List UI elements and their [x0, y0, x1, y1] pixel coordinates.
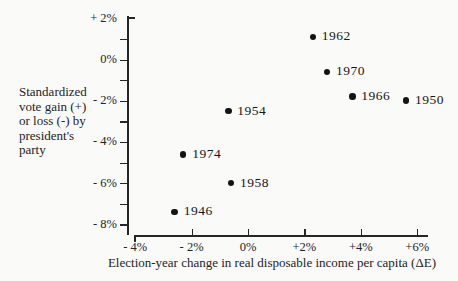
y-tick-label: - 2% [61, 93, 117, 108]
y-tick [120, 101, 127, 102]
data-point-label: 1946 [184, 203, 213, 219]
x-tick [248, 229, 249, 235]
data-point-dot [225, 108, 232, 115]
y-tick [120, 204, 127, 205]
y-tick [120, 163, 127, 164]
y-tick-label: 0% [61, 52, 117, 67]
x-axis-title: Election-year change in real disposable … [86, 255, 458, 271]
y-axis-line [127, 16, 129, 235]
y-tick-label: - 8% [61, 217, 117, 232]
y-tick-label: - 6% [61, 176, 117, 191]
data-point-label: 1958 [240, 175, 269, 191]
data-point-label: 1970 [336, 63, 365, 79]
data-point-dot [180, 151, 187, 158]
y-tick [120, 39, 127, 40]
y-tick-label: - 4% [61, 134, 117, 149]
y-tick [120, 183, 127, 184]
data-point-label: 1966 [361, 88, 390, 104]
x-tick [304, 229, 305, 235]
x-tick-label: 0% [220, 240, 276, 254]
x-tick-label: - 4% [107, 240, 163, 254]
data-point-dot [403, 97, 410, 104]
y-tick [120, 224, 127, 225]
data-point-dot [349, 93, 356, 100]
x-tick-label: - 2% [164, 240, 220, 254]
x-tick-label: +6% [389, 240, 445, 254]
data-point-dot [310, 34, 317, 41]
data-point-dot [171, 209, 178, 216]
x-axis-line [134, 235, 428, 237]
x-tick-label: +2% [276, 240, 332, 254]
scatter-chart: Standardized vote gain (+) or loss (-) b… [0, 0, 458, 281]
data-point-label: 1962 [322, 28, 351, 44]
plot-area: + 2%0%- 2%- 4%- 6%- 8%- 4%- 2%0%+2%+4%+6… [0, 0, 458, 281]
x-tick [417, 229, 418, 235]
x-tick [192, 229, 193, 235]
data-point-label: 1974 [192, 146, 221, 162]
y-tick [120, 121, 127, 122]
x-tick [361, 229, 362, 235]
y-tick [120, 60, 127, 61]
data-point-dot [324, 69, 331, 76]
data-point-dot [228, 180, 235, 187]
data-point-label: 1950 [415, 92, 444, 108]
y-axis-top-cap [127, 17, 135, 19]
data-point-label: 1954 [237, 103, 266, 119]
y-tick [120, 142, 127, 143]
x-tick-label: +4% [333, 240, 389, 254]
y-tick [120, 80, 127, 81]
y-tick-label: + 2% [61, 11, 117, 26]
